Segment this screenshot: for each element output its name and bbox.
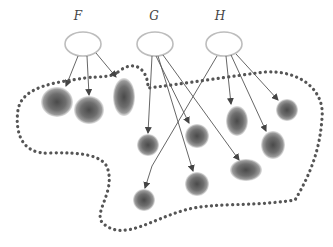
target-blobs (41, 78, 298, 211)
source-node-g (137, 32, 173, 56)
source-node-h (206, 32, 242, 56)
target-blob-t4 (137, 134, 159, 156)
source-nodes (65, 32, 242, 56)
target-blob-t8 (261, 131, 285, 159)
arrow-f-2 (96, 53, 116, 77)
label-f: F (74, 9, 82, 23)
arrow-g-3 (148, 56, 152, 133)
diagram-svg (0, 0, 333, 247)
arrow-f-0 (66, 56, 78, 86)
target-blob-t9 (230, 159, 262, 181)
target-blob-t7 (276, 99, 298, 121)
arrow-h-8 (226, 56, 231, 104)
diagram-canvas: F G H (0, 0, 333, 247)
target-blob-t6 (226, 106, 248, 136)
arrow-g-5 (158, 56, 193, 171)
label-g: G (149, 9, 159, 23)
arrow-h-10 (236, 54, 278, 100)
target-blob-t5 (185, 124, 209, 148)
label-h: H (215, 9, 225, 23)
source-node-f (65, 32, 101, 56)
target-blob-t3 (113, 78, 135, 116)
target-blob-t2 (74, 96, 104, 124)
arrow-h-7 (145, 56, 217, 188)
arrow-f-1 (87, 56, 89, 95)
target-blob-t11 (133, 189, 155, 211)
target-blob-t10 (185, 172, 209, 196)
target-blob-t1 (41, 87, 73, 117)
